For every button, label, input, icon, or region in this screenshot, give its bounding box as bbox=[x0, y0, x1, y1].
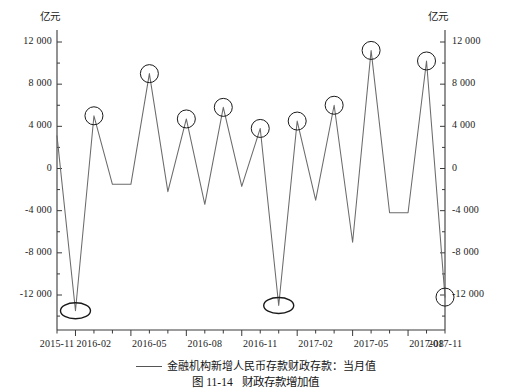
x-axis-tick-label: 2015-11 bbox=[40, 338, 74, 349]
data-series-line bbox=[57, 50, 445, 310]
annotation-markers bbox=[60, 41, 454, 318]
y-axis-ticks-right bbox=[440, 42, 445, 316]
y-axis-unit-label-right: 亿元 bbox=[428, 8, 449, 23]
axes-group bbox=[57, 30, 445, 330]
y-axis-tick-label: 12 000 bbox=[8, 35, 52, 46]
legend-label: 金融机构新增人民币存款财政存款：当月值 bbox=[167, 360, 376, 372]
caption-number: 图 11-14 bbox=[192, 376, 232, 388]
y-axis-tick-label: 4 000 bbox=[8, 119, 52, 130]
x-axis-tick-label: 2016-08 bbox=[187, 338, 222, 349]
plot-area bbox=[0, 0, 511, 391]
caption-title: 财政存款增加值 bbox=[242, 376, 319, 388]
y-axis-tick-label: -4 000 bbox=[452, 204, 498, 215]
x-axis-tick-label: 2017-02 bbox=[298, 338, 333, 349]
chart-legend: 金融机构新增人民币存款财政存款：当月值 bbox=[0, 357, 511, 373]
y-axis-tick-label: -12 000 bbox=[8, 288, 52, 299]
y-axis-tick-label: 0 bbox=[8, 162, 52, 173]
legend-line-swatch bbox=[136, 366, 162, 367]
x-axis-tick-label: 2016-05 bbox=[132, 338, 167, 349]
x-axis-ticks bbox=[57, 330, 445, 336]
chart-figure: 亿元 亿元 12 0008 0004 0000-4 000-8 000-12 0… bbox=[0, 0, 511, 391]
x-axis-tick-label: 2016-11 bbox=[243, 338, 277, 349]
y-axis-tick-label: -12 000 bbox=[452, 288, 498, 299]
x-axis-tick-label: 2017-05 bbox=[354, 338, 389, 349]
y-axis-tick-label: 0 bbox=[452, 162, 498, 173]
x-axis-tick-label: 2016-02 bbox=[77, 338, 112, 349]
y-axis-tick-label: -4 000 bbox=[8, 204, 52, 215]
y-axis-tick-label: 4 000 bbox=[452, 119, 498, 130]
y-axis-tick-label: -8 000 bbox=[8, 246, 52, 257]
y-axis-tick-label: -8 000 bbox=[452, 246, 498, 257]
x-axis-tick-label: 2017-11 bbox=[428, 338, 462, 349]
y-axis-tick-label: 8 000 bbox=[8, 77, 52, 88]
y-axis-tick-label: 8 000 bbox=[452, 77, 498, 88]
y-axis-tick-label: 12 000 bbox=[452, 35, 498, 46]
figure-caption: 图 11-14财政存款增加值 bbox=[0, 373, 511, 389]
y-axis-unit-label-left: 亿元 bbox=[40, 8, 61, 23]
